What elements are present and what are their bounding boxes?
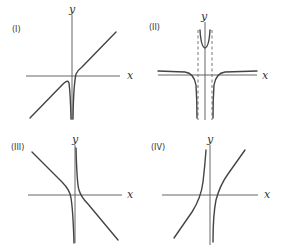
panel-4-x-label: x <box>264 188 271 201</box>
panel-2-right-branch <box>213 71 257 118</box>
panel-1-y-label: y <box>68 3 76 16</box>
panel-3-label: (III) <box>11 143 24 152</box>
panel-1-x-label: x <box>127 69 134 82</box>
panel-1-label: (I) <box>12 25 21 34</box>
panel-4-right-branch <box>213 150 245 242</box>
panel-2-y-label: y <box>200 10 208 23</box>
panel-2-left-branch <box>158 71 197 118</box>
panel-2-x-label: x <box>262 69 269 82</box>
panel-3-right-branch <box>76 148 118 240</box>
panel-2-label: (II) <box>149 23 160 32</box>
panel-1-left-branch <box>30 81 71 119</box>
panel-3: (III) y x <box>11 133 134 243</box>
panel-1: (I) y x <box>12 3 134 120</box>
panel-4-label: (IV) <box>151 143 165 152</box>
panel-3-left-branch <box>32 152 74 243</box>
panel-4: (IV) y x <box>151 133 271 245</box>
graphs-figure: (I) y x (II) y x (III) y x (IV) y x <box>0 0 287 251</box>
panel-3-y-label: y <box>71 133 79 146</box>
panel-4-left-branch <box>174 150 206 238</box>
panel-2: (II) y x <box>149 10 269 120</box>
panel-1-right-branch <box>73 32 116 119</box>
panel-3-x-label: x <box>127 188 134 201</box>
panel-4-y-label: y <box>206 133 214 146</box>
